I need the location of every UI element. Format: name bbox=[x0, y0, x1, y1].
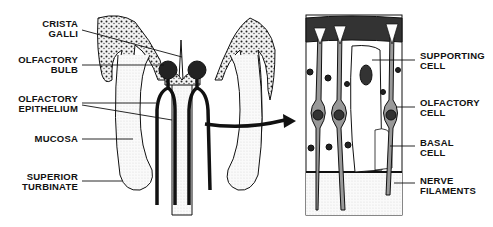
label-olfactory-bulb: OLFACTORY BULB bbox=[10, 55, 78, 75]
label-crista-galli: CRISTA GALLI bbox=[20, 19, 78, 39]
label-mucosa: MUCOSA bbox=[20, 134, 78, 144]
label-olfactory-cell: OLFACTORY CELL bbox=[420, 98, 480, 118]
label-basal-cell: BASAL CELL bbox=[420, 138, 454, 158]
label-olfactory-epithelium: OLFACTORY EPITHELIUM bbox=[4, 94, 78, 114]
label-superior-turbinate: SUPERIOR TURBINATE bbox=[10, 172, 78, 192]
nasal-cross-section bbox=[98, 16, 276, 215]
label-supporting-cell: SUPPORTING CELL bbox=[420, 51, 485, 71]
label-nerve-filaments: NERVE FILAMENTS bbox=[420, 176, 476, 196]
epithelium-closeup bbox=[306, 15, 402, 215]
